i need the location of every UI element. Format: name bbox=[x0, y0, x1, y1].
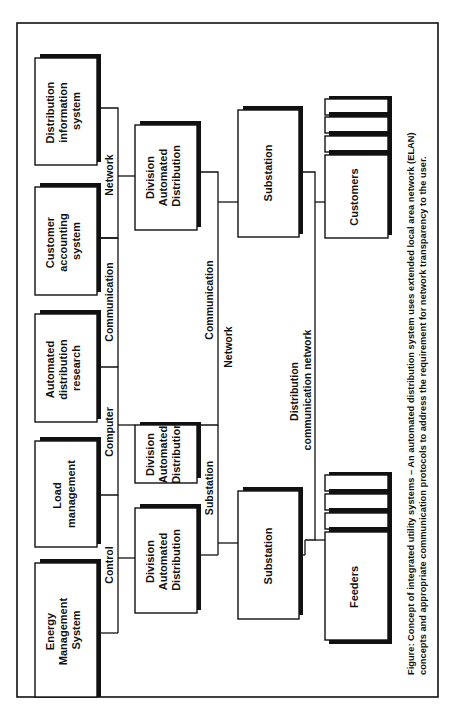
svg-text:Automated distribution: Automated distribution research bbox=[44, 336, 82, 400]
system-box-automated-distribution-research: Automated distribution research bbox=[35, 310, 101, 422]
substation-bus: Communication Network Substation bbox=[197, 172, 238, 555]
svg-text:Division Automated: Division Automated Distribution bbox=[144, 422, 182, 484]
figure-caption: Figure: Concept of integrated utility sy… bbox=[406, 130, 428, 675]
division-node-3: Division Automated Distribution bbox=[135, 504, 201, 613]
svg-text:Substation: Substation bbox=[262, 527, 274, 584]
distribution-network-label: Distribution communication network bbox=[288, 329, 313, 450]
control-bus: Network Communication Computer Control bbox=[97, 108, 135, 633]
bus-label-network: Network bbox=[103, 154, 115, 196]
customers-stack: Customers bbox=[325, 96, 392, 238]
bus-label-network-2: Network bbox=[222, 326, 234, 368]
system-box-energy-management: Energy Management System bbox=[35, 559, 101, 697]
system-box-load-management: Load management bbox=[35, 437, 101, 547]
feeders-stack: Feeders bbox=[325, 472, 392, 644]
feeders-label: Feeders bbox=[348, 566, 360, 608]
bus-label-communication: Communication bbox=[103, 262, 115, 341]
bus-label-substation: Substation bbox=[203, 461, 215, 515]
svg-text:Substation: Substation bbox=[262, 144, 274, 201]
division-node-2: Division Automated Distribution bbox=[135, 422, 201, 484]
bus-label-computer: Computer bbox=[103, 407, 115, 457]
diagram-canvas: Distribution information system Customer… bbox=[0, 0, 458, 711]
division-node-1: Division Automated Distribution bbox=[135, 121, 201, 230]
svg-text:Division Automated: Division Automated Distribution bbox=[144, 145, 182, 207]
svg-text:Division Automated: Division Automated Distribution bbox=[144, 529, 182, 591]
substation-box-2: Substation bbox=[238, 487, 303, 619]
system-box-distribution-information: Distribution information system bbox=[35, 54, 101, 165]
system-box-customer-accounting: Customer accounting system bbox=[35, 183, 101, 295]
substation-box-1: Substation bbox=[238, 106, 303, 237]
customers-label: Customers bbox=[348, 168, 360, 225]
bus-label-communication-2: Communication bbox=[203, 260, 215, 339]
bus-label-control: Control bbox=[103, 546, 115, 583]
